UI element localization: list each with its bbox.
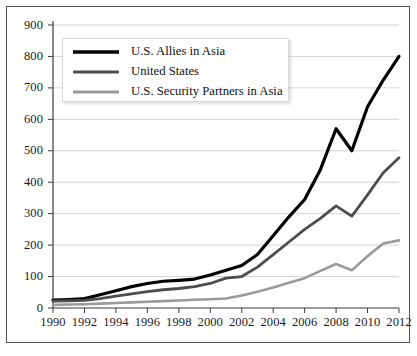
chart-legend: U.S. Allies in Asia United States U.S. S… <box>62 38 289 102</box>
chart-figure: 0100200300400500600700800900 19901992199… <box>0 0 417 356</box>
legend-label-security-partners: U.S. Security Partners in Asia <box>131 85 283 98</box>
y-tick-label: 600 <box>9 113 43 126</box>
y-tick-label: 0 <box>9 302 43 315</box>
y-tick-label: 100 <box>9 270 43 283</box>
x-tick-marks-group <box>53 308 399 313</box>
legend-item-2: U.S. Security Partners in Asia <box>63 81 288 102</box>
x-tick-label: 2012 <box>379 316 417 329</box>
legend-label-allies: U.S. Allies in Asia <box>131 45 225 58</box>
y-tick-label: 500 <box>9 144 43 157</box>
y-tick-marks-group <box>48 25 53 308</box>
legend-line-swatch-united-states <box>72 66 120 78</box>
legend-line-swatch-allies <box>72 46 120 58</box>
y-tick-label: 200 <box>9 239 43 252</box>
chart-frame: 0100200300400500600700800900 19901992199… <box>6 6 410 343</box>
y-tick-label: 300 <box>9 207 43 220</box>
y-tick-label: 800 <box>9 50 43 63</box>
legend-label-united-states: United States <box>131 65 199 78</box>
legend-item-0: U.S. Allies in Asia <box>63 41 288 62</box>
y-tick-label: 400 <box>9 176 43 189</box>
y-tick-label: 900 <box>9 19 43 32</box>
series-line-1 <box>53 158 399 301</box>
legend-item-1: United States <box>63 61 288 82</box>
legend-line-swatch-security-partners <box>72 86 120 98</box>
y-tick-label: 700 <box>9 81 43 94</box>
